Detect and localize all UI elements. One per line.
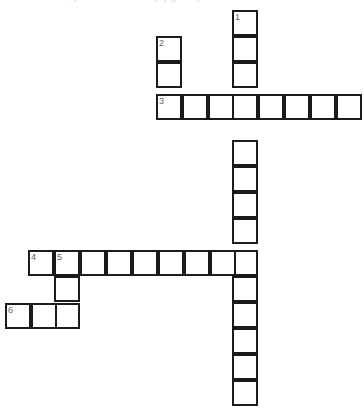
grid-cell[interactable] bbox=[232, 62, 258, 88]
cell-letter bbox=[56, 305, 78, 327]
cell-letter bbox=[108, 252, 130, 274]
crossword-grid[interactable]: 123456 bbox=[0, 0, 364, 419]
cell-letter bbox=[210, 96, 232, 118]
grid-cell[interactable] bbox=[184, 250, 210, 276]
grid-cell[interactable] bbox=[208, 94, 234, 120]
cell-letter bbox=[234, 168, 256, 190]
grid-cell[interactable] bbox=[210, 250, 236, 276]
cell-letter bbox=[234, 96, 256, 118]
grid-cell[interactable]: 6 bbox=[5, 303, 31, 329]
cell-letter bbox=[160, 252, 182, 274]
cell-letter bbox=[234, 252, 256, 274]
cell-letter bbox=[234, 194, 256, 216]
cell-letter bbox=[234, 278, 256, 300]
cell-letter bbox=[234, 220, 256, 242]
cell-letter bbox=[234, 64, 256, 86]
grid-cell[interactable] bbox=[54, 303, 80, 329]
grid-cell[interactable] bbox=[156, 62, 182, 88]
grid-cell[interactable] bbox=[284, 94, 310, 120]
cell-letter bbox=[260, 96, 282, 118]
cell-letter bbox=[30, 252, 52, 274]
grid-cell[interactable] bbox=[258, 94, 284, 120]
crossword-puzzle: crossword, please fill in the empty grid… bbox=[0, 0, 364, 419]
grid-cell[interactable] bbox=[80, 250, 106, 276]
grid-cell[interactable] bbox=[232, 94, 258, 120]
cell-letter bbox=[338, 96, 360, 118]
grid-cell[interactable]: 3 bbox=[156, 94, 182, 120]
grid-cell[interactable] bbox=[232, 354, 258, 380]
grid-cell[interactable]: 2 bbox=[156, 36, 182, 62]
grid-cell[interactable] bbox=[232, 218, 258, 244]
grid-cell[interactable]: 1 bbox=[232, 10, 258, 36]
grid-cell[interactable] bbox=[232, 276, 258, 302]
grid-cell[interactable] bbox=[158, 250, 184, 276]
grid-cell[interactable]: 5 bbox=[54, 250, 80, 276]
grid-cell[interactable] bbox=[132, 250, 158, 276]
cell-letter bbox=[7, 305, 29, 327]
cell-letter bbox=[234, 304, 256, 326]
cell-letter bbox=[234, 382, 256, 404]
cell-letter bbox=[184, 96, 206, 118]
grid-cell[interactable] bbox=[182, 94, 208, 120]
cell-letter bbox=[33, 305, 55, 327]
cell-letter bbox=[286, 96, 308, 118]
grid-cell[interactable] bbox=[232, 302, 258, 328]
grid-cell[interactable] bbox=[54, 276, 80, 302]
cell-letter bbox=[134, 252, 156, 274]
grid-cell[interactable] bbox=[232, 140, 258, 166]
cell-letter bbox=[158, 96, 180, 118]
cell-letter bbox=[212, 252, 234, 274]
cell-letter bbox=[56, 278, 78, 300]
cell-letter bbox=[56, 252, 78, 274]
cell-letter bbox=[234, 356, 256, 378]
grid-cell[interactable] bbox=[106, 250, 132, 276]
cell-letter bbox=[82, 252, 104, 274]
cell-letter bbox=[234, 38, 256, 60]
cell-letter bbox=[158, 38, 180, 60]
grid-cell[interactable] bbox=[232, 166, 258, 192]
grid-cell[interactable] bbox=[232, 192, 258, 218]
grid-cell[interactable] bbox=[232, 36, 258, 62]
grid-cell[interactable] bbox=[232, 328, 258, 354]
cell-letter bbox=[234, 142, 256, 164]
cell-letter bbox=[234, 12, 256, 34]
cell-letter bbox=[186, 252, 208, 274]
cell-letter bbox=[234, 330, 256, 352]
grid-cell[interactable] bbox=[310, 94, 336, 120]
grid-cell[interactable] bbox=[336, 94, 362, 120]
cell-letter bbox=[158, 64, 180, 86]
grid-cell[interactable]: 4 bbox=[28, 250, 54, 276]
grid-cell[interactable] bbox=[31, 303, 57, 329]
grid-cell[interactable] bbox=[232, 380, 258, 406]
cell-letter bbox=[312, 96, 334, 118]
